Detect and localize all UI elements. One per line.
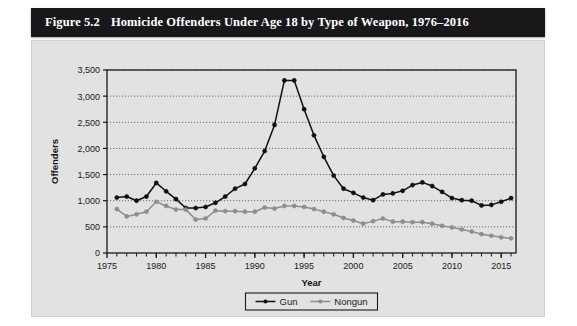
figure-container: Figure 5.2Homicide Offenders Under Age 1… [0,0,577,326]
data-point [223,194,227,198]
data-point [302,107,306,111]
data-point [263,205,267,209]
x-tick-label: 2005 [393,261,413,271]
data-point [351,218,355,222]
data-point [115,207,119,211]
y-tick-label: 3,500 [77,65,100,75]
y-tick-label: 2,000 [77,144,100,154]
figure-title-bar: Figure 5.2Homicide Offenders Under Age 1… [31,8,545,37]
y-axis-label: Offenders [49,139,60,184]
x-tick-label: 2015 [491,261,511,271]
data-point [332,212,336,216]
data-point [125,194,129,198]
data-point [420,180,424,184]
data-point [144,210,148,214]
data-point [391,220,395,224]
data-point [213,201,217,205]
data-point [253,210,257,214]
data-point [125,214,129,218]
chart-panel: 05001,0001,5002,0002,5003,0003,500197519… [31,40,545,317]
data-point [164,189,168,193]
figure-number: Figure 5.2 [45,15,100,29]
data-point [401,189,405,193]
data-point [460,198,464,202]
x-tick-label: 1980 [146,261,166,271]
data-point [440,190,444,194]
data-point [243,210,247,214]
x-tick-label: 1975 [97,261,117,271]
data-point [450,225,454,229]
data-point [509,196,513,200]
data-point [312,133,316,137]
line-chart: 05001,0001,5002,0002,5003,0003,500197519… [32,41,544,316]
data-point [361,195,365,199]
x-tick-label: 1995 [294,261,314,271]
data-point [322,210,326,214]
data-point [263,149,267,153]
data-point [322,155,326,159]
legend-swatch-marker [318,299,322,303]
y-tick-label: 500 [85,222,100,232]
data-point [499,200,503,204]
y-tick-label: 0 [95,248,100,258]
data-point [489,234,493,238]
plot-frame [107,70,516,253]
data-point [203,216,207,220]
data-point [233,187,237,191]
data-point [203,205,207,209]
data-point [332,174,336,178]
data-point [371,219,375,223]
data-point [253,166,257,170]
data-point [420,220,424,224]
data-point [134,212,138,216]
data-point [479,203,483,207]
legend-label-gun: Gun [280,296,298,307]
data-point [489,203,493,207]
data-point [450,196,454,200]
data-point [430,184,434,188]
y-tick-label: 2,500 [77,118,100,128]
y-tick-label: 3,000 [77,92,100,102]
data-point [391,191,395,195]
x-axis-label: Year [301,277,321,288]
data-point [440,224,444,228]
data-point [194,206,198,210]
data-point [194,217,198,221]
data-point [381,216,385,220]
legend-swatch-marker [263,299,267,303]
data-point [154,181,158,185]
data-point [282,204,286,208]
data-point [243,182,247,186]
data-point [381,192,385,196]
data-point [134,199,138,203]
y-tick-label: 1,500 [77,170,100,180]
data-point [144,194,148,198]
data-point [292,204,296,208]
data-point [302,205,306,209]
x-tick-label: 1985 [196,261,216,271]
data-point [312,207,316,211]
data-point [479,232,483,236]
data-point [410,183,414,187]
legend-label-nongun: Nongun [334,296,367,307]
x-tick-label: 2000 [343,261,363,271]
data-point [371,198,375,202]
data-point [115,195,119,199]
data-point [272,206,276,210]
figure-title-text: Homicide Offenders Under Age 18 by Type … [111,15,469,29]
data-point [361,222,365,226]
data-point [292,78,296,82]
data-point [272,123,276,127]
data-point [282,78,286,82]
data-point [460,227,464,231]
data-point [154,200,158,204]
series-line-gun [117,80,511,208]
figure-title: Figure 5.2Homicide Offenders Under Age 1… [31,15,469,30]
x-tick-label: 2010 [442,261,462,271]
data-point [341,187,345,191]
data-point [174,208,178,212]
data-point [351,191,355,195]
data-point [164,204,168,208]
data-point [174,197,178,201]
data-point [184,208,188,212]
